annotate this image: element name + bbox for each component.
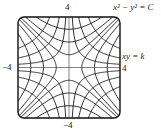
left-axis-label: −4 <box>2 63 12 72</box>
top-axis-label: 4 <box>65 3 70 12</box>
family-label-x2-y2: x² − y² = C <box>113 3 154 12</box>
bottom-axis-label: −4 <box>63 121 73 130</box>
family-label-xy: xy = k <box>122 52 145 61</box>
orthogonal-trajectories-plot <box>0 0 160 133</box>
hyperbola-xy-curve <box>5 83 68 133</box>
hyperbola-x2-y2-curve <box>0 106 160 133</box>
right-axis-label: 4 <box>122 64 127 73</box>
hyperbola-xy-curve <box>70 83 133 133</box>
hyperbola-x2-y2-curve <box>95 0 161 133</box>
hyperbola-x2-y2-curve <box>0 80 160 133</box>
